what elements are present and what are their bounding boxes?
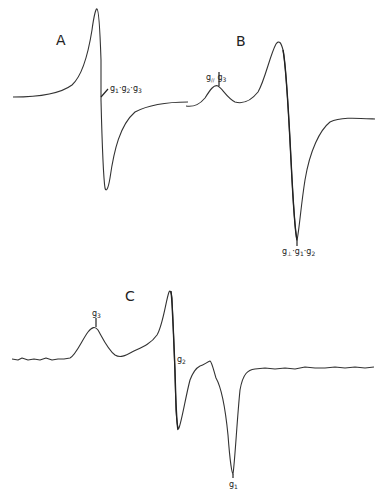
epr-spectra-figure: A g1·g2·g3 B g//g3 g⊥·g1·g2 C g3 g2 — [0, 0, 383, 499]
panel-c-label: C — [125, 288, 135, 304]
panel-b-label: B — [236, 33, 246, 49]
annotation-b-gperp-g1-g2: g⊥·g1·g2 — [282, 247, 315, 257]
panel-a: A g1·g2·g3 — [13, 9, 188, 190]
annotation-b-gpar-g3: g//g3 — [206, 73, 227, 83]
annotation-c-g3: g3 — [92, 309, 101, 319]
annotation-c-g1: g1 — [229, 480, 238, 490]
annotation-pointer — [101, 89, 108, 97]
spectrum-b-steep-segment — [283, 50, 297, 240]
spectrum-a-trace — [13, 9, 188, 190]
annotation-a-g123: g1·g2·g3 — [110, 84, 142, 94]
spectrum-b-trace — [186, 42, 375, 240]
annotation-c-g2: g2 — [177, 355, 186, 365]
spectrum-c-trace — [12, 291, 374, 474]
panel-a-label: A — [56, 32, 66, 48]
panel-c: C g3 g2 g1 — [12, 288, 374, 490]
panel-b: B g//g3 g⊥·g1·g2 — [186, 33, 375, 257]
